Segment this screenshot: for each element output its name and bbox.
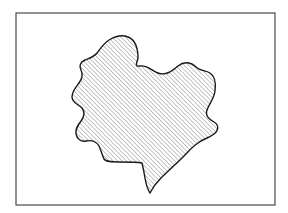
figure-root: [0, 0, 288, 213]
diagram-canvas: [0, 0, 288, 213]
